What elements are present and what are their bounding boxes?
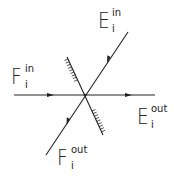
label-base: E: [137, 106, 149, 128]
label-base: F: [11, 66, 22, 88]
label-subscript: i: [151, 120, 154, 130]
label-base: E: [98, 10, 110, 32]
diagonal-ray: [46, 32, 128, 155]
mirror: [65, 57, 106, 135]
label-subscript: i: [112, 24, 115, 34]
hatch-lower: [92, 110, 105, 132]
label-e-out: E out i: [137, 106, 151, 128]
arrow-down-left-icon: [67, 117, 71, 125]
label-f-in: F in i: [11, 66, 24, 88]
arrow-right-icon: [47, 93, 54, 97]
hatch-upper: [65, 59, 78, 81]
label-subscript: i: [25, 80, 28, 90]
label-f-out: F out i: [57, 147, 70, 169]
label-superscript: out: [71, 145, 87, 155]
label-superscript: in: [25, 64, 34, 74]
label-base: F: [57, 147, 68, 169]
label-superscript: in: [112, 8, 121, 18]
label-superscript: out: [151, 104, 167, 114]
arrow-right-icon: [125, 93, 132, 97]
crossing-point: [84, 94, 87, 97]
label-subscript: i: [71, 161, 74, 171]
label-e-in: E in i: [98, 10, 112, 32]
